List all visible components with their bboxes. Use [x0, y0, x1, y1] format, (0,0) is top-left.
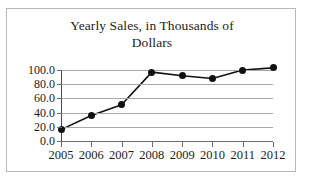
y-axis-tick	[57, 84, 62, 85]
x-axis-tick-label: 2010	[195, 148, 229, 163]
y-axis-tick-label: 100.0	[11, 64, 55, 76]
x-axis-tick	[273, 142, 274, 147]
x-axis-tick	[122, 142, 123, 147]
x-axis-tick	[61, 142, 62, 147]
data-point-marker	[270, 64, 277, 71]
x-axis-tick-label: 2009	[165, 148, 199, 163]
data-point-marker	[239, 67, 246, 74]
gridline	[61, 127, 273, 128]
chart-title-line-2: Dollars	[25, 34, 279, 51]
y-axis-tick-label: 80.0	[11, 78, 55, 90]
y-axis-tick-label: 40.0	[11, 107, 55, 119]
x-axis-tick-label: 2006	[74, 148, 108, 163]
series-line	[61, 70, 273, 141]
chart-title: Yearly Sales, in Thousands of Dollars	[25, 17, 279, 51]
x-axis-tick	[91, 142, 92, 147]
x-axis-tick-label: 2011	[226, 148, 260, 163]
x-axis-tick	[212, 142, 213, 147]
y-axis-tick	[57, 70, 62, 71]
y-axis-tick	[57, 113, 62, 114]
x-axis-tick-labels: 20052006200720082009201020112012	[7, 148, 295, 168]
y-axis-tick-label: 60.0	[11, 92, 55, 104]
chart-figure: Yearly Sales, in Thousands of Dollars 10…	[6, 8, 296, 172]
gridline	[61, 98, 273, 99]
y-axis-tick	[57, 98, 62, 99]
data-point-marker	[88, 112, 95, 119]
x-axis-tick	[152, 142, 153, 147]
x-axis-tick-label: 2008	[135, 148, 169, 163]
x-axis-tick-label: 2012	[256, 148, 290, 163]
x-axis-tick-label: 2005	[44, 148, 78, 163]
x-axis-tick	[182, 142, 183, 147]
y-axis-tick-labels: 100.080.060.040.020.00.0	[7, 70, 55, 141]
y-axis-tick	[57, 127, 62, 128]
gridline	[61, 84, 273, 85]
data-point-marker	[148, 69, 155, 76]
data-point-marker	[179, 72, 186, 79]
plot-area	[61, 70, 273, 141]
y-axis-tick-label: 0.0	[11, 135, 55, 147]
data-point-marker	[209, 75, 216, 82]
y-axis-tick-label: 20.0	[11, 121, 55, 133]
x-axis-tick	[243, 142, 244, 147]
x-axis-tick-label: 2007	[105, 148, 139, 163]
gridline	[61, 141, 273, 142]
chart-title-line-1: Yearly Sales, in Thousands of	[25, 17, 279, 34]
